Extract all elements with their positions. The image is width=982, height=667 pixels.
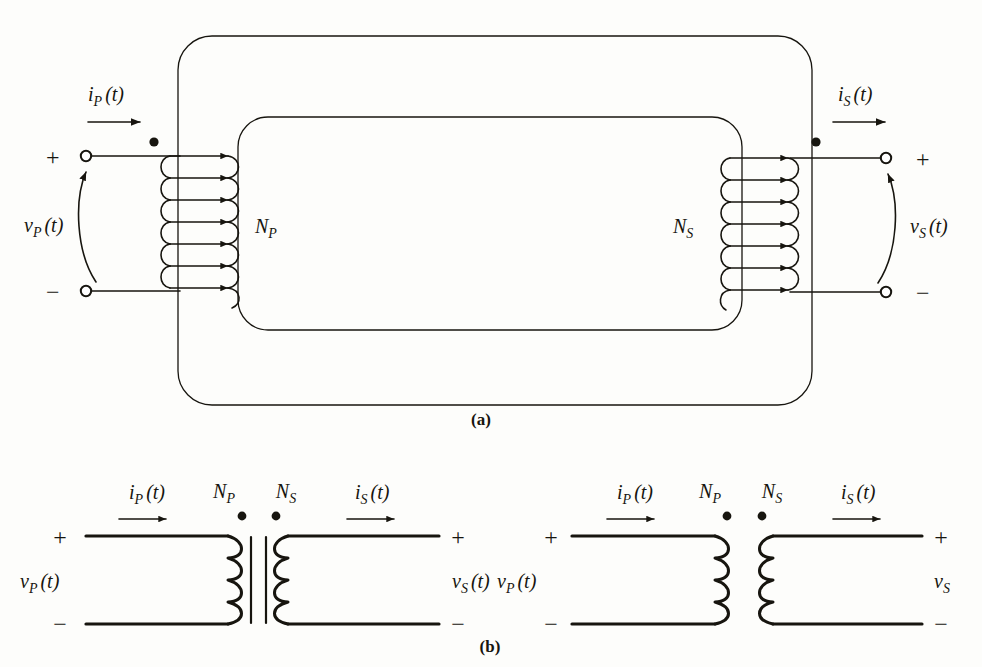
primary-terminal-minus — [81, 286, 91, 296]
right-primary-polarity-dot — [723, 512, 732, 521]
primary-loop-right-1 — [228, 156, 239, 178]
right-primary-voltage-label: vP(t) — [497, 570, 537, 596]
transformer-figure: iP(t) iS(t) + − + − vP(t) vS(t) NP NS (a… — [0, 0, 982, 667]
right-primary-current-label: iP(t) — [617, 481, 653, 507]
primary-loop-right-6 — [228, 266, 239, 288]
panel-a-secondary-voltage-label: vS(t) — [910, 215, 948, 241]
right-secondary-turns-label: NS — [761, 480, 782, 506]
secondary-terminal-minus — [881, 287, 891, 297]
primary-coil — [161, 156, 239, 308]
left-secondary-voltage-label: vS(t) — [452, 570, 490, 596]
secondary-loop-left-7 — [720, 290, 730, 310]
panel-a-secondary-minus-sign: − — [916, 280, 930, 306]
schematic-symbol-right: iP(t) iS(t) NP NS + − + − vP(t) vS — [497, 480, 950, 637]
right-secondary-minus-sign: − — [934, 611, 948, 637]
panel-b: iP(t) iS(t) NP NS + − + − vP(t) vS(t) — [20, 480, 950, 656]
left-secondary-minus-sign: − — [451, 611, 465, 637]
right-primary-turns-label: NP — [698, 480, 721, 506]
secondary-loop-right-2 — [788, 180, 799, 202]
primary-voltage-arrow — [79, 172, 96, 282]
left-secondary-turns-label: NS — [275, 480, 296, 506]
panel-a-primary-current-label: iP(t) — [88, 83, 124, 109]
right-primary-plus-sign: + — [544, 524, 558, 550]
panel-a-primary-minus-sign: − — [46, 279, 60, 305]
primary-loop-left-5 — [161, 244, 170, 266]
panel-b-caption: (b) — [480, 637, 501, 656]
secondary-loop-right-5 — [788, 246, 799, 268]
panel-a-primary-plus-sign: + — [46, 144, 60, 170]
core-outer-edge — [178, 36, 812, 405]
secondary-loop-right-6 — [788, 268, 799, 290]
right-secondary-coil — [760, 536, 774, 624]
primary-terminal-plus — [81, 151, 91, 161]
panel-a-caption: (a) — [471, 410, 491, 429]
secondary-loop-left-5 — [721, 246, 730, 268]
panel-a-secondary-current-label: iS(t) — [838, 83, 873, 109]
secondary-terminal-plus — [881, 153, 891, 163]
left-primary-current-label: iP(t) — [129, 481, 165, 507]
right-secondary-current-label: iS(t) — [841, 481, 876, 507]
secondary-loop-left-6 — [721, 268, 730, 290]
left-primary-coil — [228, 536, 242, 624]
left-primary-minus-sign: − — [53, 611, 67, 637]
primary-loop-right-4 — [228, 222, 239, 244]
primary-loop-left-4 — [161, 222, 170, 244]
left-primary-plus-sign: + — [53, 524, 67, 550]
left-primary-voltage-label: vP(t) — [20, 570, 60, 596]
right-primary-minus-sign: − — [544, 611, 558, 637]
panel-a-primary-turns-label: NP — [254, 215, 277, 241]
left-secondary-plus-sign: + — [451, 524, 465, 550]
secondary-loop-right-4 — [788, 224, 799, 246]
primary-loop-left-1 — [161, 156, 170, 178]
secondary-polarity-dot — [811, 137, 820, 146]
primary-loop-left-3 — [161, 200, 170, 222]
right-secondary-voltage-label: vS — [934, 570, 950, 596]
secondary-winding-group — [720, 122, 895, 310]
primary-loop-right-5 — [228, 244, 239, 266]
schematic-symbol-left: iP(t) iS(t) NP NS + − + − vP(t) vS(t) — [20, 480, 490, 637]
secondary-loop-left-4 — [721, 224, 730, 246]
primary-polarity-dot — [149, 137, 158, 146]
primary-winding-group — [79, 122, 239, 308]
core-outline — [178, 36, 812, 405]
left-secondary-current-label: iS(t) — [355, 481, 390, 507]
panel-a: iP(t) iS(t) + − + − vP(t) vS(t) NP NS (a… — [24, 36, 948, 429]
secondary-loop-right-3 — [788, 202, 799, 224]
right-primary-coil — [715, 536, 729, 624]
primary-loop-right-3 — [228, 200, 239, 222]
secondary-loop-right-1 — [788, 158, 799, 180]
primary-loop-right-2 — [228, 178, 239, 200]
secondary-voltage-arrow — [878, 174, 895, 283]
secondary-loop-left-3 — [721, 202, 730, 224]
right-secondary-plus-sign: + — [934, 524, 948, 550]
secondary-loop-left-2 — [721, 180, 730, 202]
left-primary-polarity-dot — [238, 512, 247, 521]
panel-a-primary-voltage-label: vP(t) — [24, 214, 64, 240]
figure-page: iP(t) iS(t) + − + − vP(t) vS(t) NP NS (a… — [0, 0, 982, 667]
panel-a-secondary-plus-sign: + — [916, 146, 930, 172]
right-secondary-polarity-dot — [758, 512, 767, 521]
left-secondary-coil — [275, 536, 289, 624]
primary-loop-left-2 — [161, 178, 170, 200]
secondary-coil — [720, 158, 798, 310]
secondary-loop-left-1 — [721, 158, 730, 180]
panel-a-secondary-turns-label: NS — [672, 215, 693, 241]
left-secondary-polarity-dot — [272, 512, 281, 521]
core-inner-edge — [238, 117, 742, 330]
left-primary-turns-label: NP — [212, 480, 235, 506]
primary-loop-left-6 — [161, 266, 170, 288]
